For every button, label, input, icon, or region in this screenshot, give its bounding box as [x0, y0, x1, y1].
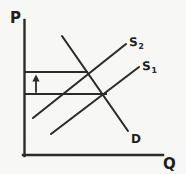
price-increase-arrow-icon [32, 75, 39, 93]
supply-s2-subscript: 2 [138, 42, 144, 51]
quantity-axis-label: Q [163, 157, 176, 172]
supply-curve-s1-label: S1 [142, 60, 157, 72]
economics-supply-demand-diagram: P Q S2 S1 D [0, 0, 186, 174]
supply-curve-s2-label: S2 [129, 36, 144, 48]
supply-s1-letter: S [142, 59, 151, 73]
supply-curve-s1 [51, 67, 139, 134]
diagram-canvas [0, 0, 186, 174]
supply-s2-letter: S [129, 35, 138, 49]
supply-s1-subscript: 1 [151, 66, 157, 75]
price-axis-label: P [10, 11, 21, 26]
demand-curve-label: D [131, 133, 141, 145]
